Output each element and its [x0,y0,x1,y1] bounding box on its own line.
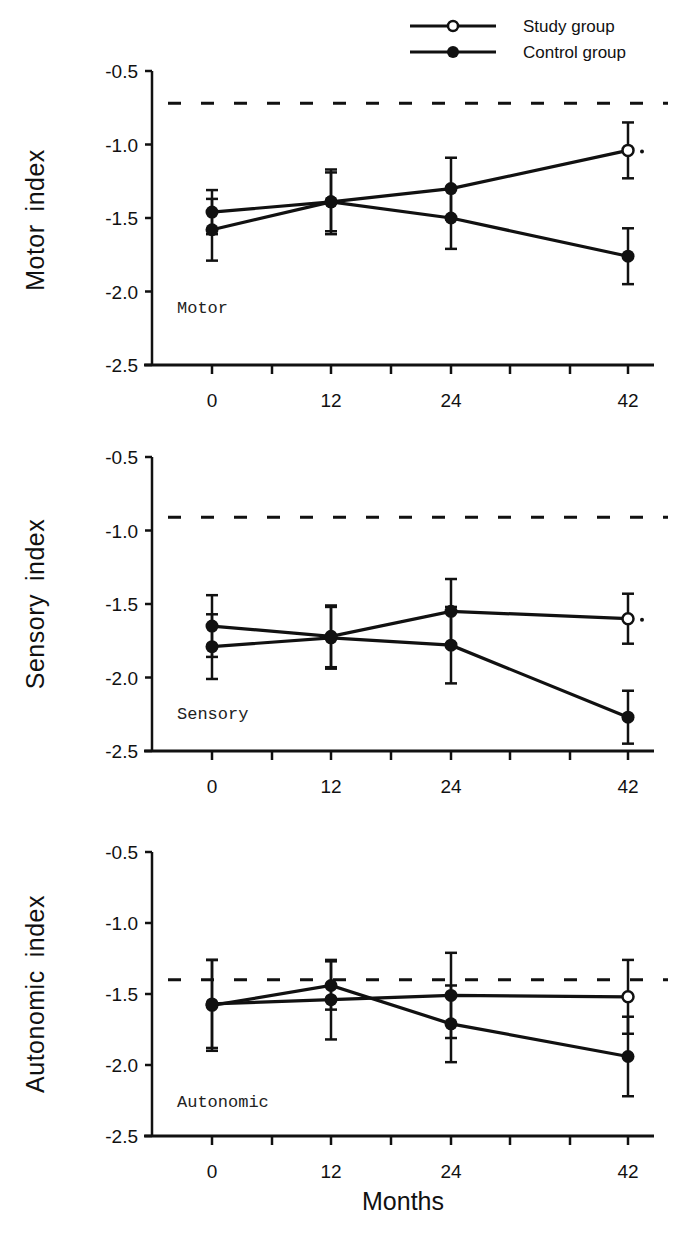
legend-label-study: Study group [523,17,615,36]
filled-circle-marker-icon [325,993,338,1006]
filled-circle-marker-icon [445,212,458,225]
filled-circle-marker-icon [447,46,459,58]
legend-item-study: Study group [410,17,615,36]
panel-tag: Sensory [177,705,248,724]
y-axis-title: Autonomic index [21,895,49,1093]
y-tick-label: -1.0 [105,521,138,542]
panel-tag: Autonomic [177,1093,269,1112]
y-tick-label: -2.0 [105,1055,138,1076]
study-group-line [212,150,628,229]
y-tick-label: -1.5 [105,208,138,229]
motor-panel: -0.5-1.0-1.5-2.0-2.50122442Motor indexMo… [21,61,668,411]
x-tick-label: 12 [320,776,341,797]
filled-circle-marker-icon [206,223,219,236]
y-tick-label: -2.5 [105,1126,138,1147]
y-tick-label: -1.5 [105,984,138,1005]
x-tick-label: 42 [617,390,638,411]
filled-circle-marker-icon [325,195,338,208]
y-axis-title: Sensory index [21,519,49,689]
x-tick-label: 0 [207,390,218,411]
sensory-panel: -0.5-1.0-1.5-2.0-2.50122442Sensory index… [21,447,668,797]
y-tick-label: -1.0 [105,135,138,156]
x-tick-label: 12 [320,390,341,411]
y-tick-label: -0.5 [105,61,138,82]
control-group-line [212,638,628,717]
autonomic-panel: -0.5-1.0-1.5-2.0-2.50122442Autonomic ind… [21,842,668,1182]
study-group-line [212,995,628,1004]
y-tick-label: -2.5 [105,355,138,376]
legend: Study group Control group [410,17,626,62]
y-tick-label: -2.0 [105,282,138,303]
open-circle-marker-icon [623,145,634,156]
filled-circle-marker-icon [445,605,458,618]
filled-circle-marker-icon [622,711,635,724]
open-circle-marker-icon [623,613,634,624]
filled-circle-marker-icon [622,250,635,263]
open-circle-marker-icon [623,991,634,1002]
study-group-line [212,611,628,636]
y-axis-title: Motor index [21,149,49,291]
filled-circle-marker-icon [206,997,219,1010]
filled-circle-marker-icon [622,1050,635,1063]
legend-label-control: Control group [523,43,626,62]
x-tick-label: 12 [320,1161,341,1182]
y-tick-label: -1.5 [105,594,138,615]
x-axis-title: Months [362,1187,444,1215]
x-tick-label: 42 [617,1161,638,1182]
y-tick-label: -1.0 [105,913,138,934]
filled-circle-marker-icon [325,979,338,992]
significance-dot-icon [640,149,644,153]
filled-circle-marker-icon [445,639,458,652]
x-tick-label: 24 [440,390,462,411]
legend-item-control: Control group [410,43,626,62]
filled-circle-marker-icon [445,1017,458,1030]
x-tick-label: 24 [440,1161,462,1182]
filled-circle-marker-icon [206,620,219,633]
y-tick-label: -0.5 [105,447,138,468]
filled-circle-marker-icon [206,206,219,219]
y-tick-label: -2.0 [105,668,138,689]
y-tick-label: -2.5 [105,741,138,762]
filled-circle-marker-icon [325,630,338,643]
filled-circle-marker-icon [445,989,458,1002]
x-tick-label: 0 [207,1161,218,1182]
panel-tag: Motor [177,299,228,318]
open-circle-marker-icon [448,21,458,31]
significance-dot-icon [640,618,644,622]
figure: Study group Control group -0.5-1.0-1.5-2… [0,0,674,1248]
x-tick-label: 42 [617,776,638,797]
y-tick-label: -0.5 [105,842,138,863]
filled-circle-marker-icon [445,182,458,195]
x-tick-label: 24 [440,776,462,797]
control-group-line [212,202,628,256]
x-tick-label: 0 [207,776,218,797]
filled-circle-marker-icon [206,640,219,653]
